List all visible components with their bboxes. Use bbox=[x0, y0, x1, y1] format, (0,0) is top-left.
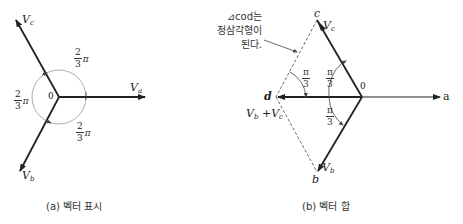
label-vb-b: Vb bbox=[322, 162, 334, 175]
fraction-numerator: π bbox=[326, 106, 334, 117]
note-line: 정삼각형이 bbox=[206, 24, 262, 38]
equilateral-note: ⊿cod는 정삼각형이 된다. bbox=[206, 10, 262, 52]
point-c-label: c bbox=[314, 8, 320, 19]
panel-b-diagram bbox=[264, 20, 440, 172]
arc-arrow-icon bbox=[342, 61, 346, 63]
angle-pi3-lower: π 3 bbox=[326, 106, 334, 127]
fraction-denominator: 3 bbox=[77, 133, 83, 143]
note-pointer-arrow bbox=[264, 40, 297, 52]
fraction-numerator: 2 bbox=[74, 48, 82, 59]
angle-pi3-upper: π 3 bbox=[326, 68, 334, 89]
fraction-denominator: 3 bbox=[303, 79, 309, 89]
fraction-numerator: 2 bbox=[14, 90, 22, 101]
fraction-denominator: 3 bbox=[327, 117, 333, 127]
label-vb: Vb bbox=[22, 170, 34, 183]
label-vc-b: Vc bbox=[323, 20, 335, 33]
angle-label-bottom: 2 3 π bbox=[76, 122, 91, 143]
angle-label-top: 2 3 π bbox=[74, 48, 89, 69]
pi-symbol: π bbox=[85, 128, 91, 138]
fraction-numerator: π bbox=[326, 68, 334, 79]
fraction-numerator: 2 bbox=[76, 122, 84, 133]
vector-vc-arrow bbox=[16, 20, 59, 97]
fraction-denominator: 3 bbox=[15, 101, 21, 111]
fraction-denominator: 3 bbox=[75, 59, 81, 69]
axis-a-label: a bbox=[443, 91, 450, 102]
label-vc: Vc bbox=[22, 14, 34, 27]
origin-label-b: 0 bbox=[360, 82, 366, 91]
angle-label-left: 2 3 π bbox=[14, 90, 29, 111]
dashed-side-cd bbox=[276, 20, 317, 97]
fraction-numerator: π bbox=[302, 68, 310, 79]
caption-b: (b) 벡터 합 bbox=[302, 198, 350, 213]
point-b-label: b bbox=[312, 174, 319, 185]
pi-symbol: π bbox=[23, 96, 29, 106]
point-d-label: d bbox=[264, 91, 272, 102]
panel-a-diagram bbox=[16, 20, 145, 171]
pi-symbol: π bbox=[83, 54, 89, 64]
vector-vb-arrow bbox=[318, 97, 362, 171]
sum-label: Vb +Vc bbox=[246, 108, 283, 121]
fraction-denominator: 3 bbox=[327, 79, 333, 89]
note-line: ⊿cod는 bbox=[206, 10, 262, 24]
origin-label-a: 0 bbox=[48, 92, 54, 101]
caption-a: (a) 벡터 표시 bbox=[46, 198, 102, 213]
angle-pi3-d: π 3 bbox=[302, 68, 310, 89]
label-va: Va bbox=[130, 82, 142, 95]
note-line: 된다. bbox=[206, 38, 262, 52]
